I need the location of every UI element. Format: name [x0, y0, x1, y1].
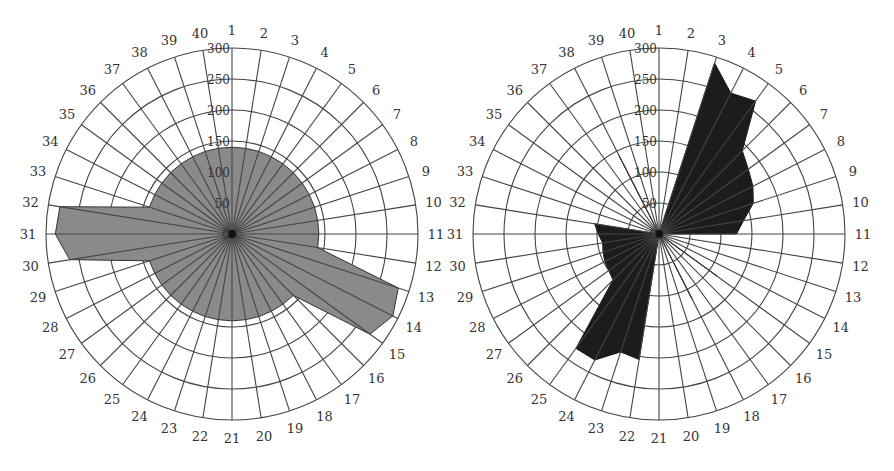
category-label-33: 33	[457, 164, 474, 179]
category-label-4: 4	[747, 45, 755, 60]
category-label-40: 40	[192, 26, 209, 41]
spoke-17	[659, 234, 768, 385]
category-label-34: 34	[469, 134, 486, 149]
category-label-37: 37	[531, 62, 548, 77]
category-label-37: 37	[104, 62, 121, 77]
category-label-13: 13	[418, 290, 435, 305]
category-label-2: 2	[260, 26, 268, 41]
category-label-12: 12	[852, 259, 869, 274]
category-label-3: 3	[718, 33, 726, 48]
category-label-27: 27	[486, 347, 503, 362]
radial-tick-200: 200	[634, 104, 657, 118]
radial-tick-150: 150	[207, 135, 230, 149]
radial-tick-0: 0	[222, 228, 230, 242]
category-label-14: 14	[833, 320, 850, 335]
radial-tick-150: 150	[634, 135, 657, 149]
category-label-24: 24	[131, 409, 148, 424]
category-label-36: 36	[507, 83, 524, 98]
category-label-26: 26	[507, 371, 524, 386]
category-label-15: 15	[389, 347, 406, 362]
spoke-16	[659, 234, 791, 366]
category-label-17: 17	[771, 392, 788, 407]
radar-chart-left: 0501001502002503001234567891011121314151…	[20, 23, 445, 446]
category-label-25: 25	[531, 392, 548, 407]
category-label-34: 34	[42, 134, 59, 149]
category-label-1: 1	[655, 23, 663, 38]
category-label-10: 10	[425, 195, 442, 210]
category-label-6: 6	[799, 83, 807, 98]
category-label-31: 31	[20, 227, 37, 242]
radial-tick-100: 100	[634, 166, 657, 180]
radial-tick-300: 300	[634, 42, 657, 56]
category-label-22: 22	[619, 429, 636, 444]
category-label-10: 10	[852, 195, 869, 210]
category-label-17: 17	[344, 392, 361, 407]
category-label-31: 31	[447, 227, 464, 242]
category-label-36: 36	[80, 83, 97, 98]
figure: 0501001502002503001234567891011121314151…	[0, 0, 894, 471]
category-label-23: 23	[588, 421, 605, 436]
category-label-8: 8	[837, 134, 845, 149]
spoke-13	[659, 234, 836, 292]
radial-tick-50: 50	[215, 197, 230, 211]
category-label-24: 24	[558, 409, 575, 424]
category-label-18: 18	[743, 409, 760, 424]
category-label-39: 39	[161, 33, 178, 48]
category-label-6: 6	[372, 83, 380, 98]
category-label-33: 33	[30, 164, 47, 179]
category-label-7: 7	[820, 107, 828, 122]
spoke-19	[659, 234, 717, 411]
category-label-30: 30	[449, 259, 466, 274]
category-label-38: 38	[558, 45, 575, 60]
category-label-5: 5	[348, 62, 356, 77]
category-label-40: 40	[619, 26, 636, 41]
category-label-39: 39	[588, 33, 605, 48]
radar-charts-figure: 0501001502002503001234567891011121314151…	[0, 0, 894, 471]
category-label-19: 19	[287, 421, 304, 436]
category-label-12: 12	[425, 259, 442, 274]
category-label-1: 1	[228, 23, 236, 38]
category-label-29: 29	[30, 290, 47, 305]
category-label-38: 38	[131, 45, 148, 60]
category-label-11: 11	[855, 227, 872, 242]
category-label-11: 11	[428, 227, 445, 242]
category-label-8: 8	[410, 134, 418, 149]
category-label-30: 30	[22, 259, 39, 274]
category-label-2: 2	[687, 26, 695, 41]
category-label-21: 21	[651, 431, 668, 446]
radial-tick-200: 200	[207, 104, 230, 118]
category-label-16: 16	[368, 371, 385, 386]
category-label-9: 9	[422, 164, 430, 179]
category-label-3: 3	[291, 33, 299, 48]
radial-tick-250: 250	[634, 73, 657, 87]
category-label-28: 28	[469, 320, 486, 335]
category-label-22: 22	[192, 429, 209, 444]
category-label-23: 23	[161, 421, 178, 436]
category-label-9: 9	[849, 164, 857, 179]
spoke-15	[659, 234, 810, 343]
radial-tick-300: 300	[207, 42, 230, 56]
category-label-35: 35	[486, 107, 503, 122]
category-label-20: 20	[683, 429, 700, 444]
radial-tick-50: 50	[642, 197, 657, 211]
category-label-25: 25	[104, 392, 121, 407]
category-label-20: 20	[256, 429, 273, 444]
category-label-5: 5	[775, 62, 783, 77]
category-label-7: 7	[393, 107, 401, 122]
radial-tick-0: 0	[649, 228, 657, 242]
category-label-14: 14	[406, 320, 423, 335]
radar-chart-right: 0501001502002503001234567891011121314151…	[447, 23, 872, 446]
category-label-35: 35	[59, 107, 76, 122]
category-label-29: 29	[457, 290, 474, 305]
category-label-18: 18	[316, 409, 333, 424]
category-label-15: 15	[816, 347, 833, 362]
category-label-4: 4	[320, 45, 328, 60]
radial-tick-250: 250	[207, 73, 230, 87]
category-label-26: 26	[80, 371, 97, 386]
category-label-21: 21	[224, 431, 241, 446]
category-label-19: 19	[714, 421, 731, 436]
radial-tick-100: 100	[207, 166, 230, 180]
category-label-13: 13	[845, 290, 862, 305]
category-label-32: 32	[22, 195, 39, 210]
category-label-16: 16	[795, 371, 812, 386]
